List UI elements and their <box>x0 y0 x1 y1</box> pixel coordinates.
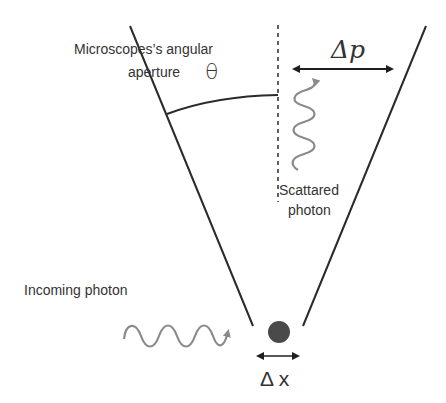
cone-right-edge <box>303 26 426 326</box>
aperture-arc <box>167 95 278 114</box>
theta-symbol: θ <box>205 61 218 83</box>
scattered-label-line1: Scattared <box>279 183 339 197</box>
delta-p-label: Δp <box>331 37 365 62</box>
scattered-label-line2: photon <box>288 203 331 217</box>
aperture-label-line1: Microscopes’s angular <box>74 42 213 56</box>
microscope-diagram <box>0 0 446 403</box>
incoming-photon-label: Incoming photon <box>24 283 128 297</box>
scattered-photon-wave <box>293 80 315 170</box>
delta-x-label: Δ x <box>260 368 289 389</box>
aperture-label-line2: aperture <box>128 65 180 79</box>
incoming-photon-wave <box>124 326 228 347</box>
electron-particle <box>268 321 290 343</box>
